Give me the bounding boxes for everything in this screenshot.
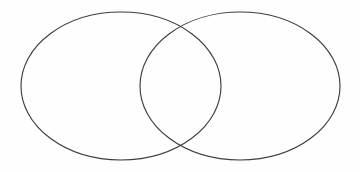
venn-left-ellipse [21,12,221,160]
venn-right-ellipse [140,12,340,160]
venn-diagram-canvas [0,0,360,172]
venn-diagram-svg [0,0,360,172]
